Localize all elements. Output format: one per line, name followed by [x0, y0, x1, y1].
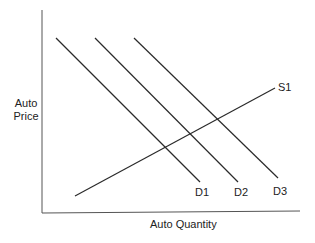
curve-s1 [75, 88, 275, 196]
y-axis-label: Auto Price [6, 97, 46, 123]
curve-label-d3: D3 [273, 185, 287, 198]
x-axis-label: Auto Quantity [150, 218, 217, 231]
curve-label-s1: S1 [278, 81, 291, 94]
y-axis-label-line-2: Price [6, 110, 46, 123]
y-axis-label-line-1: Auto [6, 97, 46, 110]
supply-demand-diagram [0, 0, 315, 243]
curve-d3 [134, 38, 278, 178]
curve-label-d2: D2 [234, 186, 248, 199]
curve-d1 [56, 38, 200, 182]
curve-label-d1: D1 [195, 186, 209, 199]
x-axis [42, 211, 300, 213]
curve-d2 [95, 38, 238, 182]
